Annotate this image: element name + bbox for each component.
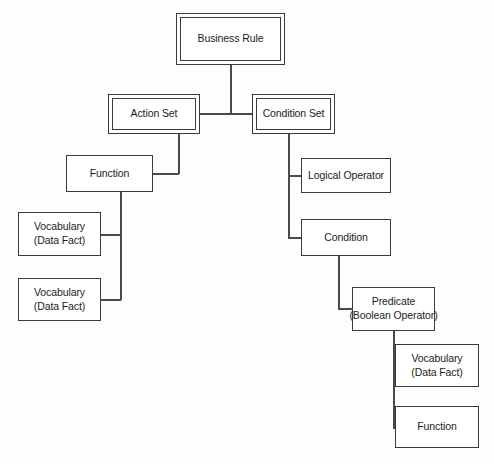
- connector-cs-down-right: [288, 134, 290, 238]
- node-condition: Condition: [301, 219, 391, 256]
- node-inner-action-set: Action Set: [112, 98, 196, 130]
- connector-cs-to-logop-h: [288, 175, 302, 177]
- node-inner-logical-operator: Logical Operator: [302, 159, 390, 192]
- node-sublabel-vocabulary-3: (Data Fact): [411, 366, 462, 380]
- node-function-right: Function: [395, 406, 479, 448]
- connector-as-to-fn-down: [178, 134, 180, 174]
- node-sublabel-predicate: (Boolean Operator): [349, 309, 437, 323]
- node-label-condition: Condition: [324, 231, 367, 245]
- node-inner-predicate: Predicate(Boolean Operator): [353, 288, 434, 330]
- node-label-function-right: Function: [417, 420, 456, 434]
- node-label-business-rule: Business Rule: [198, 32, 264, 46]
- connector-cond-down: [338, 256, 340, 310]
- node-predicate: Predicate(Boolean Operator): [352, 287, 435, 331]
- connector-cs-to-cond-h: [288, 237, 302, 239]
- node-inner-vocabulary-1: Vocabulary(Data Fact): [19, 213, 100, 255]
- node-label-logical-operator: Logical Operator: [308, 169, 384, 183]
- node-vocabulary-2: Vocabulary(Data Fact): [18, 278, 101, 321]
- connector-fn-down-left: [120, 192, 122, 300]
- node-logical-operator: Logical Operator: [301, 158, 391, 193]
- node-inner-condition-set: Condition Set: [256, 98, 331, 130]
- node-vocabulary-1: Vocabulary(Data Fact): [18, 212, 101, 256]
- node-inner-function-right: Function: [396, 407, 478, 447]
- node-sublabel-vocabulary-1: (Data Fact): [34, 234, 85, 248]
- business-rule-diagram: Business RuleAction SetCondition SetFunc…: [0, 0, 494, 464]
- node-label-vocabulary-2: Vocabulary: [34, 286, 85, 300]
- node-inner-condition: Condition: [302, 220, 390, 255]
- node-vocabulary-3: Vocabulary(Data Fact): [395, 344, 479, 387]
- connector-fn-to-voc1-h: [100, 234, 121, 236]
- connector-fn-to-voc2-h: [100, 299, 121, 301]
- node-inner-business-rule: Business Rule: [180, 17, 281, 61]
- node-condition-set: Condition Set: [252, 94, 335, 134]
- node-label-condition-set: Condition Set: [263, 107, 325, 121]
- node-inner-vocabulary-2: Vocabulary(Data Fact): [19, 279, 100, 320]
- node-label-action-set: Action Set: [131, 107, 178, 121]
- node-business-rule: Business Rule: [176, 13, 285, 65]
- node-label-vocabulary-1: Vocabulary: [34, 220, 85, 234]
- node-label-vocabulary-3: Vocabulary: [412, 352, 463, 366]
- connector-as-to-fn-h: [152, 173, 179, 175]
- node-inner-vocabulary-3: Vocabulary(Data Fact): [396, 345, 478, 386]
- node-action-set: Action Set: [108, 94, 200, 134]
- node-label-predicate: Predicate: [372, 295, 415, 309]
- connector-br-down: [230, 65, 232, 113]
- node-sublabel-vocabulary-2: (Data Fact): [34, 300, 85, 314]
- node-label-function-left: Function: [90, 167, 129, 181]
- node-inner-function-left: Function: [67, 156, 152, 191]
- node-function-left: Function: [66, 155, 153, 192]
